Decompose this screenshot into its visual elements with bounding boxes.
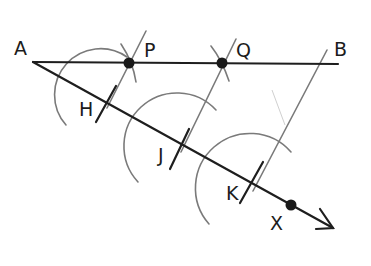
construction-diagram: A P Q B H J K X	[0, 0, 371, 266]
tick-h	[96, 86, 116, 122]
diagram-canvas: A P Q B H J K X	[0, 0, 371, 266]
label-q: Q	[236, 39, 251, 61]
stray-mark	[272, 90, 285, 125]
point-q	[217, 58, 228, 69]
parallel-line-hp	[107, 31, 146, 108]
segment-ab	[33, 62, 338, 64]
label-j: J	[157, 144, 164, 166]
tick-j	[170, 129, 189, 169]
label-p: P	[144, 39, 155, 61]
point-p	[124, 58, 135, 69]
parallel-line-kb	[253, 50, 327, 191]
label-b: B	[334, 38, 347, 60]
label-k: K	[226, 182, 239, 204]
label-x: X	[270, 212, 283, 234]
parallel-line-jq	[181, 39, 236, 152]
label-h: H	[79, 98, 93, 120]
point-x	[286, 200, 297, 211]
label-a: A	[14, 37, 27, 59]
